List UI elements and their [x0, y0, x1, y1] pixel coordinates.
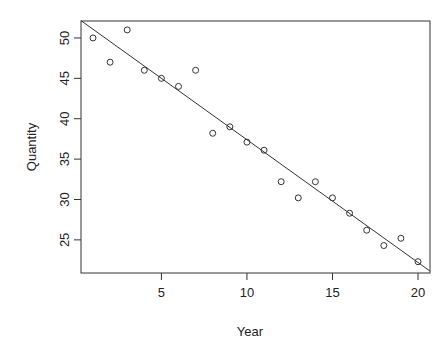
x-tick-label: 5	[158, 285, 165, 300]
y-axis-label: Quantity	[24, 122, 39, 171]
data-point	[107, 59, 113, 65]
data-point	[364, 227, 370, 233]
data-point	[295, 195, 301, 201]
x-axis-label: Year	[237, 324, 264, 339]
y-tick-label: 35	[57, 152, 72, 166]
y-tick-label: 45	[57, 71, 72, 85]
y-axis: 253035404550	[57, 31, 81, 247]
scatter-chart: 253035404550 5101520 Year Quantity	[0, 0, 446, 352]
data-point	[415, 259, 421, 265]
data-point	[141, 67, 147, 73]
y-tick-label: 50	[57, 31, 72, 45]
data-point	[124, 27, 130, 33]
y-tick-label: 25	[57, 233, 72, 247]
data-point	[90, 35, 96, 41]
data-point	[210, 130, 216, 136]
data-point	[278, 179, 284, 185]
x-tick-label: 15	[325, 285, 339, 300]
data-point	[227, 124, 233, 130]
data-point	[398, 235, 404, 241]
x-tick-label: 10	[240, 285, 254, 300]
data-point	[312, 179, 318, 185]
regression-line	[81, 21, 430, 271]
data-point	[381, 243, 387, 249]
data-point	[193, 67, 199, 73]
data-point	[176, 83, 182, 89]
y-tick-label: 30	[57, 192, 72, 206]
fit-line	[81, 21, 430, 271]
data-point	[329, 195, 335, 201]
y-tick-label: 40	[57, 111, 72, 125]
x-tick-label: 20	[411, 285, 425, 300]
x-axis: 5101520	[158, 273, 425, 300]
